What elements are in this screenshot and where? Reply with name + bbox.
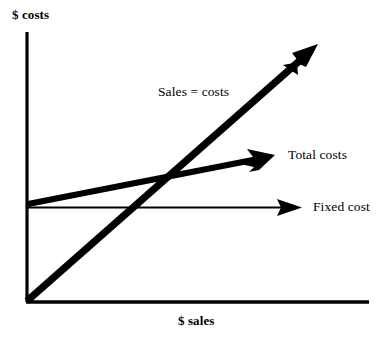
x-axis-label: $ sales [178, 314, 214, 327]
chart-drawing [0, 0, 387, 338]
sales-equals-costs-label: Sales = costs [158, 85, 229, 99]
fixed-cost-label: Fixed cost [313, 200, 370, 214]
total-costs-label: Total costs [288, 148, 347, 162]
y-axis-label: $ costs [12, 8, 49, 21]
break-even-chart: $ costs $ sales Sales = costs Total cost… [0, 0, 387, 338]
